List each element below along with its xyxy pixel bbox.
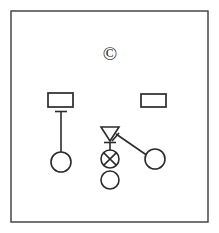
right-circle-node[interactable] — [145, 149, 165, 169]
copyright-symbol: © — [103, 43, 117, 64]
right-rectangle-node[interactable] — [141, 94, 166, 107]
left-circle-node[interactable] — [51, 152, 71, 172]
left-rectangle-node[interactable] — [48, 93, 73, 107]
diagram-svg: © — [0, 0, 219, 233]
bottom-circle-node[interactable] — [101, 171, 119, 189]
diagram-canvas: © — [0, 0, 219, 233]
